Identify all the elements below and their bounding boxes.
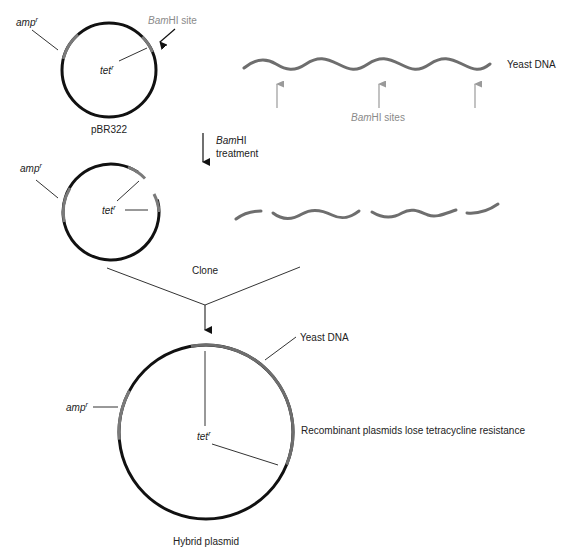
hybrid-plasmid [93,337,296,519]
treatment-label-line1: BamHI [216,135,247,146]
amp-label-1: ampr [16,16,38,28]
bamhi-site-arrows [277,84,475,108]
bamhi-sites-label: BamHI sites [351,112,405,123]
treatment-label-line2: treatment [216,148,258,159]
pbr322-label: pBR322 [91,124,128,135]
clone-merge-lines [107,267,300,330]
bamhi-site-label: BamHI site [148,15,197,26]
amp-label-3: ampr [66,401,88,413]
tet-label-1: tetr [100,64,114,76]
yeast-dna-fragments [236,204,498,219]
tet-label-3: tetr [197,430,211,442]
yeast-dna-strand [244,59,490,70]
recombinant-note: Recombinant plasmids lose tetracycline r… [301,425,525,436]
clone-label: Clone [192,265,219,276]
cut-plasmid [36,164,159,260]
tet-label-2: tetr [102,204,116,216]
hybrid-plasmid-label: Hybrid plasmid [173,536,239,547]
cloning-diagram: ampr tetr BamHI site pBR322 Yeast DNA Ba… [0,0,563,557]
hybrid-yeast-dna-label: Yeast DNA [300,332,349,343]
amp-label-2: ampr [20,162,42,174]
yeast-dna-label: Yeast DNA [507,59,556,70]
